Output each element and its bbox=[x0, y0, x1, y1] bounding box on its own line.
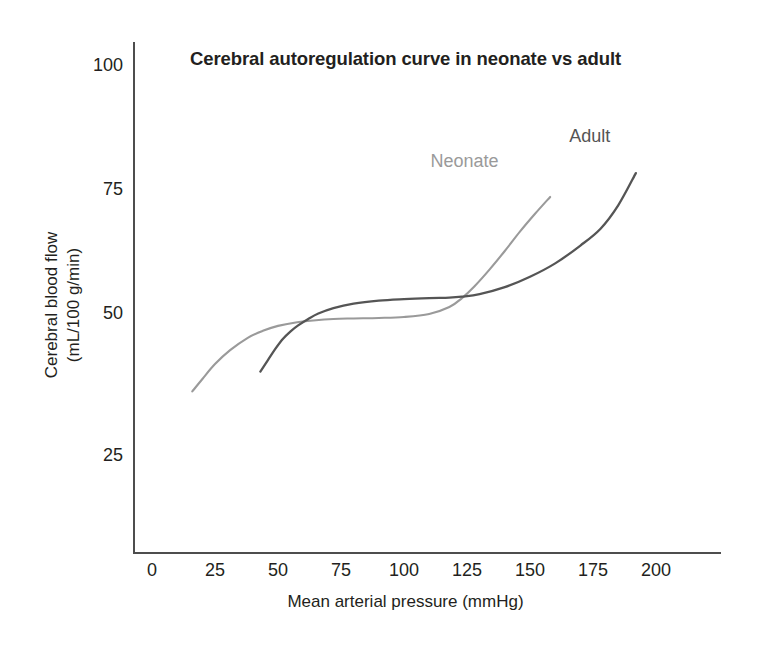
series-line-adult bbox=[260, 173, 635, 371]
plot-area bbox=[0, 0, 772, 645]
chart-figure: Cerebral autoregulation curve in neonate… bbox=[0, 0, 772, 645]
series-label-adult: Adult bbox=[569, 126, 610, 147]
x-axis-title: Mean arterial pressure (mmHg) bbox=[133, 592, 678, 612]
series-label-neonate: Neonate bbox=[431, 151, 499, 172]
series-line-neonate bbox=[192, 197, 550, 391]
